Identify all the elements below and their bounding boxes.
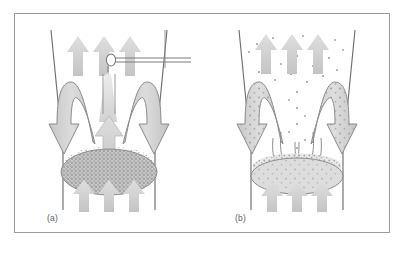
panel-a: (a) [15,14,203,234]
figure-root: (a) [0,0,403,253]
outlet-arrows-b [255,34,329,74]
panel-a-diagram [15,14,203,234]
figure-frame: (a) [14,13,390,233]
panel-b-diagram [203,14,391,234]
inlet-arrows-a [73,180,145,212]
panel-a-caption: (a) [47,213,58,223]
panel-b: (b) [203,14,391,234]
probe-lance-a [106,30,191,72]
panel-b-caption: (b) [235,213,246,223]
outlet-arrows-a [67,36,141,76]
central-jet-upper-a [99,74,117,122]
inlet-arrows-b [261,182,333,212]
